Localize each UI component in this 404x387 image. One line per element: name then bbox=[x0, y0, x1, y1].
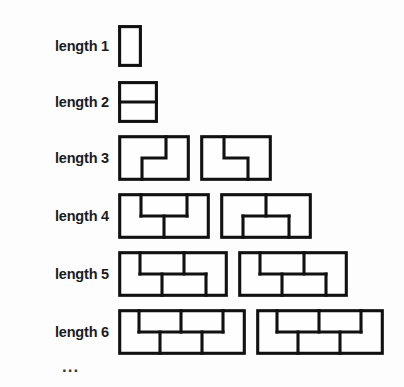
wall-6-a bbox=[118, 309, 246, 355]
figure-row-length-5: length 5 bbox=[0, 246, 404, 302]
row-figures-length-3 bbox=[118, 130, 404, 186]
wall-4-b bbox=[220, 193, 312, 239]
row-figures-length-1 bbox=[118, 18, 404, 74]
row-figures-length-5 bbox=[118, 246, 404, 302]
wall-5-b bbox=[238, 251, 348, 297]
figure-row-length-4: length 4 bbox=[0, 188, 404, 244]
row-label-length-2: length 2 bbox=[0, 95, 118, 110]
row-label-length-5: length 5 bbox=[0, 267, 118, 282]
figure-row-length-6: length 6 bbox=[0, 304, 404, 360]
wall-3-b bbox=[200, 135, 272, 181]
row-label-length-1: length 1 bbox=[0, 39, 118, 54]
wall-4-a bbox=[118, 193, 210, 239]
row-figures-length-4 bbox=[118, 188, 404, 244]
row-figures-length-2 bbox=[118, 74, 404, 130]
wall-3-a bbox=[118, 135, 190, 181]
wall-6-b bbox=[256, 309, 384, 355]
continuation-ellipsis: ... bbox=[62, 358, 122, 375]
wall-2-a bbox=[118, 81, 158, 123]
wall-5-a bbox=[118, 251, 228, 297]
figure-row-length-3: length 3 bbox=[0, 130, 404, 186]
figure-row-length-2: length 2 bbox=[0, 74, 404, 130]
brick-wall-figure: length 1 length 2 length 3 bbox=[0, 0, 404, 387]
figure-row-length-1: length 1 bbox=[0, 18, 404, 74]
row-label-length-4: length 4 bbox=[0, 209, 118, 224]
row-label-length-6: length 6 bbox=[0, 325, 118, 340]
row-figures-length-6 bbox=[118, 304, 404, 360]
wall-1-a bbox=[118, 25, 142, 67]
row-label-length-3: length 3 bbox=[0, 151, 118, 166]
